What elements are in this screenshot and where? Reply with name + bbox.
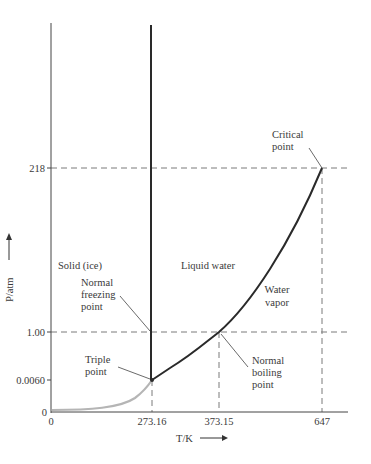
region-liquid: Liquid water	[181, 260, 235, 271]
x-tick-37315: 373.15	[205, 416, 234, 427]
triple-label-2: point	[85, 366, 107, 377]
y-axis-arrow-icon	[6, 233, 12, 260]
triple-label-1: Triple	[85, 354, 111, 365]
triple-point-dot	[150, 378, 154, 382]
region-vapor-line2: vapor	[265, 297, 289, 308]
vaporization-curve	[152, 168, 322, 380]
freezing-label-1: Normal	[81, 277, 113, 288]
critical-label-2: point	[272, 141, 294, 152]
freezing-label-3: point	[81, 301, 103, 312]
critical-label-1: Critical	[272, 129, 304, 140]
y-tick-1: 1.00	[27, 327, 45, 338]
boiling-label-2: boiling	[252, 367, 283, 378]
y-tick-0: 0	[42, 407, 47, 418]
sublimation-curve	[52, 380, 152, 410]
boiling-label-3: point	[252, 379, 274, 390]
y-axis-title: P/atm	[4, 277, 15, 302]
y-tick-00060: 0.0060	[16, 375, 45, 386]
phase-diagram: 218 1.00 0.0060 0 0 273.16 373.15 647 T/…	[0, 0, 371, 464]
region-vapor-line1: Water	[265, 284, 290, 295]
x-axis-arrow-icon	[200, 435, 228, 441]
x-axis-title: T/K	[176, 433, 193, 444]
x-tick-27316: 273.16	[138, 416, 167, 427]
freezing-label-2: freezing	[81, 289, 116, 300]
region-solid: Solid (ice)	[58, 260, 103, 272]
x-tick-0: 0	[48, 416, 53, 427]
x-tick-647: 647	[314, 416, 330, 427]
boiling-label-1: Normal	[252, 355, 284, 366]
y-tick-218: 218	[29, 163, 45, 174]
